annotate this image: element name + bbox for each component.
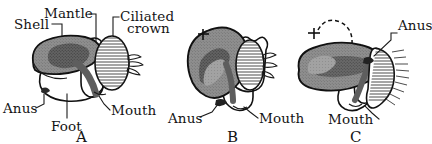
panel-letter-c: C (350, 128, 361, 144)
figure-root: Shell Mantle Ciliated crown Anus Foot Mo… (0, 0, 432, 144)
label-mantle-a: Mantle (44, 5, 93, 21)
label-anus-a: Anus (2, 100, 37, 116)
velum-b (236, 40, 264, 90)
label-anus-b: Anus (167, 110, 202, 126)
label-anus-c: Anus (397, 17, 432, 33)
torsion-diagram: Shell Mantle Ciliated crown Anus Foot Mo… (0, 0, 432, 144)
label-mouth-a: Mouth (111, 102, 156, 118)
label-ciliated-crown-a-line2: crown (127, 20, 170, 36)
panel-letter-a: A (75, 128, 87, 144)
label-mouth-b: Mouth (259, 110, 304, 126)
label-mouth-c: Mouth (328, 111, 373, 127)
panel-letter-b: B (227, 128, 238, 144)
